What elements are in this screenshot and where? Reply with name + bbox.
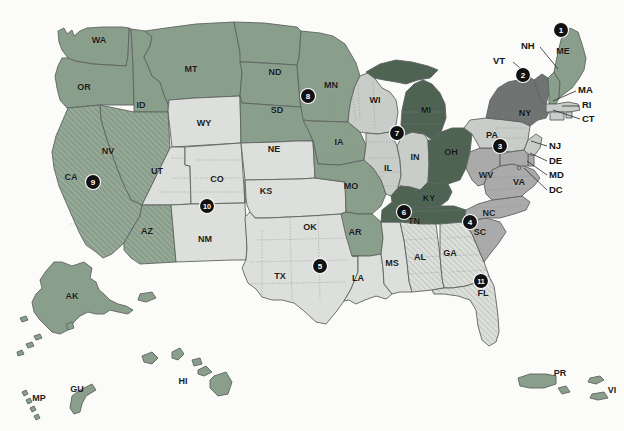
svg-text:5: 5 xyxy=(318,262,323,271)
marker-10[interactable]: 10 xyxy=(200,199,215,214)
state-ND[interactable] xyxy=(234,22,301,65)
state-label-ND: ND xyxy=(269,67,282,77)
state-label-OH: OH xyxy=(444,147,458,157)
state-label-WA: WA xyxy=(92,35,107,45)
state-label-CA: CA xyxy=(65,172,78,182)
state-label-LA: LA xyxy=(352,273,364,283)
state-label-VI: VI xyxy=(608,385,617,395)
us-map-container: WA OR ID MT WY NV CA UT CO AZ NM ND SD N… xyxy=(0,0,624,431)
state-label-NV: NV xyxy=(102,146,115,156)
callout-label-DE: DE xyxy=(549,155,562,166)
marker-9[interactable]: 9 xyxy=(86,175,101,190)
marker-5[interactable]: 5 xyxy=(313,259,328,274)
state-label-MI: MI xyxy=(421,105,431,115)
state-label-ME: ME xyxy=(556,46,570,56)
state-label-PR: PR xyxy=(554,368,567,378)
state-label-WY: WY xyxy=(197,118,212,128)
state-label-MO: MO xyxy=(344,181,359,191)
state-label-UT: UT xyxy=(151,166,163,176)
marker-3[interactable]: 3 xyxy=(493,139,508,154)
state-HI[interactable] xyxy=(142,348,232,396)
state-label-AR: AR xyxy=(349,227,362,237)
svg-text:11: 11 xyxy=(477,277,485,286)
alaska-aleutians[interactable] xyxy=(17,316,42,356)
callout-label-NH: NH xyxy=(521,40,535,51)
state-TX[interactable] xyxy=(242,212,358,324)
marker-6[interactable]: 6 xyxy=(397,205,412,220)
state-AK[interactable] xyxy=(32,262,133,334)
svg-text:8: 8 xyxy=(306,92,311,101)
marker-11[interactable]: 11 xyxy=(474,274,489,289)
state-label-SC: SC xyxy=(474,227,487,237)
state-label-SD: SD xyxy=(271,105,284,115)
svg-text:3: 3 xyxy=(498,142,503,151)
svg-text:6: 6 xyxy=(402,208,407,217)
callout-label-MD: MD xyxy=(549,169,564,180)
territory-VI[interactable] xyxy=(588,376,608,400)
state-label-WI: WI xyxy=(370,95,381,105)
state-label-MP: MP xyxy=(32,393,46,403)
state-label-NM: NM xyxy=(198,234,212,244)
state-label-MS: MS xyxy=(385,258,399,268)
state-label-IL: IL xyxy=(384,163,393,173)
callout-label-NJ: NJ xyxy=(549,140,561,151)
state-label-OK: OK xyxy=(303,222,317,232)
state-label-KY: KY xyxy=(423,193,436,203)
state-label-WV: WV xyxy=(479,170,494,180)
state-label-TN: TN xyxy=(408,216,420,226)
callout-label-RI: RI xyxy=(582,99,592,110)
state-OK[interactable] xyxy=(245,178,346,218)
state-label-GA: GA xyxy=(443,248,457,258)
callout-label-DC: DC xyxy=(549,184,563,195)
svg-text:4: 4 xyxy=(468,218,473,227)
state-label-IN: IN xyxy=(411,152,420,162)
callout-label-CT: CT xyxy=(582,113,595,124)
state-label-NE: NE xyxy=(268,144,281,154)
marker-7[interactable]: 7 xyxy=(390,126,405,141)
us-map-svg: WA OR ID MT WY NV CA UT CO AZ NM ND SD N… xyxy=(0,0,624,431)
marker-1[interactable]: 1 xyxy=(554,23,569,38)
callout-label-MA: MA xyxy=(578,84,593,95)
state-label-AL: AL xyxy=(414,252,426,262)
state-label-NY: NY xyxy=(519,108,532,118)
marker-8[interactable]: 8 xyxy=(301,89,316,104)
state-label-OR: OR xyxy=(77,82,91,92)
state-label-VA: VA xyxy=(513,177,525,187)
svg-text:10: 10 xyxy=(203,202,211,211)
svg-text:7: 7 xyxy=(395,129,400,138)
callout-label-VT: VT xyxy=(493,55,505,66)
state-DC[interactable] xyxy=(517,166,521,170)
state-label-CO: CO xyxy=(210,174,224,184)
state-label-HI: HI xyxy=(179,376,188,386)
state-label-FL: FL xyxy=(478,288,489,298)
state-label-KS: KS xyxy=(260,186,273,196)
marker-4[interactable]: 4 xyxy=(463,215,478,230)
state-label-AZ: AZ xyxy=(141,226,153,236)
state-label-MN: MN xyxy=(324,80,338,90)
state-label-MT: MT xyxy=(185,64,198,74)
state-label-GU: GU xyxy=(70,384,84,394)
state-label-NC: NC xyxy=(483,208,496,218)
svg-text:9: 9 xyxy=(91,178,96,187)
svg-text:2: 2 xyxy=(521,71,526,80)
state-label-TX: TX xyxy=(274,271,286,281)
state-label-IA: IA xyxy=(335,137,345,147)
marker-2[interactable]: 2 xyxy=(516,68,531,83)
state-label-AK: AK xyxy=(66,291,79,301)
svg-text:1: 1 xyxy=(559,26,564,35)
state-label-ID: ID xyxy=(137,100,147,110)
